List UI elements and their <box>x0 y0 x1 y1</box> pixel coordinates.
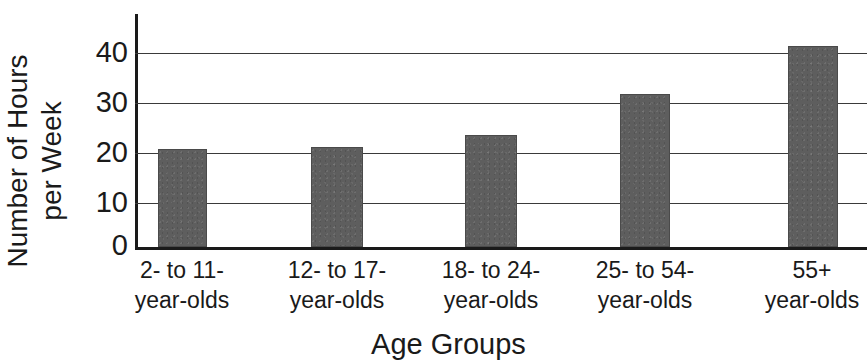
y-axis-title-line-1: Number of Hours <box>4 30 34 292</box>
x-tick-label-2: 18- to 24- year-olds <box>421 255 561 316</box>
x-tick-label-3-line-2: year-olds <box>575 285 715 315</box>
x-tick-label-0: 2- to 11- year-olds <box>112 255 252 316</box>
x-tick-label-2-line-2: year-olds <box>421 285 561 315</box>
y-tick-10: 10 <box>72 188 128 217</box>
y-axis-title: Number of Hours per Week <box>0 0 78 262</box>
x-tick-label-4-line-2: year-olds <box>742 285 867 315</box>
x-tick-label-1-line-2: year-olds <box>267 285 407 315</box>
y-tick-30: 30 <box>72 88 128 117</box>
bar-1 <box>311 147 363 247</box>
x-tick-label-1-line-1: 12- to 17- <box>267 255 407 285</box>
bar-2 <box>465 135 517 247</box>
gridline-30 <box>135 103 867 104</box>
bar-4 <box>788 46 838 247</box>
x-tick-label-0-line-1: 2- to 11- <box>112 255 252 285</box>
x-axis-title: Age Groups <box>0 330 867 364</box>
x-tick-label-4-line-1: 55+ <box>742 255 867 285</box>
y-tick-40: 40 <box>72 38 128 67</box>
bar-3 <box>620 94 670 247</box>
y-axis-title-line-2: per Week <box>38 30 68 292</box>
x-tick-label-4: 55+ year-olds <box>742 255 867 316</box>
x-tick-label-3-line-1: 25- to 54- <box>575 255 715 285</box>
gridline-40 <box>135 53 867 54</box>
x-tick-label-3: 25- to 54- year-olds <box>575 255 715 316</box>
x-tick-label-0-line-2: year-olds <box>112 285 252 315</box>
x-tick-label-1: 12- to 17- year-olds <box>267 255 407 316</box>
x-axis-line <box>135 247 867 250</box>
bar-chart: Number of Hours per Week 40 30 20 10 0 2… <box>0 0 867 364</box>
x-tick-label-2-line-1: 18- to 24- <box>421 255 561 285</box>
cropped-title-remnant <box>300 0 620 4</box>
x-axis-tick-labels: 2- to 11- year-olds 12- to 17- year-olds… <box>135 255 867 325</box>
y-tick-20: 20 <box>72 138 128 167</box>
plot-area <box>135 14 867 250</box>
bar-0 <box>158 149 207 247</box>
y-axis-line <box>135 14 138 250</box>
